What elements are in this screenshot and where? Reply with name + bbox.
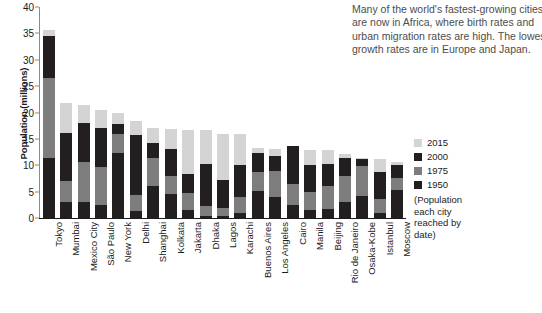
- bar-column[interactable]: [112, 7, 124, 218]
- bar-column[interactable]: [130, 7, 142, 218]
- y-axis-tick-label: 25: [23, 81, 34, 92]
- caption-line: Many of the world's fastest-growing citi…: [352, 3, 542, 16]
- y-axis-ticks: 0510152025303540: [0, 0, 40, 313]
- bar-column[interactable]: [147, 7, 159, 218]
- legend: 2015200019751950 (Populationeach cityrea…: [414, 136, 486, 240]
- y-axis-tick-label: 10: [23, 160, 34, 171]
- legend-swatch-icon: [414, 139, 422, 147]
- bar-column[interactable]: [95, 7, 107, 218]
- x-axis-label: New York: [122, 222, 134, 262]
- bar-column[interactable]: [287, 7, 299, 218]
- bar-segment-1950: [95, 205, 107, 218]
- y-axis-tick-label: 20: [23, 107, 34, 118]
- bar-column[interactable]: [43, 7, 55, 218]
- legend-note-line: reached by: [414, 217, 486, 229]
- x-axis-label: Moscow: [401, 222, 413, 257]
- bar-segment-1950: [217, 216, 229, 218]
- legend-item[interactable]: 1950: [414, 178, 486, 191]
- bar-column[interactable]: [322, 7, 334, 218]
- legend-swatch-icon: [414, 167, 422, 175]
- bar-segment-1950: [252, 191, 264, 218]
- x-axis-label: Rio de Janeiro: [349, 222, 361, 283]
- legend-items: 2015200019751950: [414, 136, 486, 191]
- bar-column[interactable]: [217, 7, 229, 218]
- caption-line: urban migration rates are high. The lowe…: [352, 30, 542, 43]
- bar-column[interactable]: [60, 7, 72, 218]
- bar-segment-1950: [374, 213, 386, 218]
- x-axis-label: Manila: [314, 222, 326, 250]
- y-axis-tick-label: 15: [23, 133, 34, 144]
- y-axis-tick-label: 5: [28, 186, 34, 197]
- bar-column[interactable]: [339, 7, 351, 218]
- legend-item[interactable]: 2000: [414, 150, 486, 163]
- bar-column[interactable]: [200, 7, 212, 218]
- bar-segment-1950: [287, 205, 299, 218]
- x-axis-label: Buenos Aires: [262, 222, 274, 278]
- bar-column[interactable]: [234, 7, 246, 218]
- bar-column[interactable]: [78, 7, 90, 218]
- bar-segment-1950: [322, 209, 334, 218]
- y-axis-tick-label: 40: [23, 2, 34, 13]
- y-axis-tick-label: 35: [23, 28, 34, 39]
- x-axis-label: Mumbai: [70, 222, 82, 256]
- bar-segment-1950: [43, 158, 55, 218]
- bar-column[interactable]: [269, 7, 281, 218]
- y-axis-tick-label: 30: [23, 54, 34, 65]
- x-axis-label: Delhi: [140, 222, 152, 244]
- x-axis-label: Kolkata: [175, 222, 187, 254]
- x-axis-labels: TokyoMumbaiMexico CitySão PauloNew YorkD…: [40, 219, 406, 313]
- legend-item[interactable]: 2015: [414, 136, 486, 149]
- x-axis-label: Mexico City: [88, 222, 100, 271]
- x-axis-label: Osaka-Kobe: [366, 222, 378, 275]
- x-axis-label: Lagos: [227, 222, 239, 248]
- bar-column[interactable]: [304, 7, 316, 218]
- bar-column[interactable]: [165, 7, 177, 218]
- x-axis-label: Cairo: [297, 222, 309, 245]
- bar-segment-1950: [269, 197, 281, 218]
- x-axis-label: Tokyo: [53, 222, 65, 247]
- caption-text: Many of the world's fastest-growing citi…: [352, 3, 542, 57]
- legend-swatch-icon: [414, 153, 422, 161]
- bar-segment-1950: [356, 196, 368, 218]
- bar-segment-1950: [165, 194, 177, 218]
- x-axis-label: Los Angeles: [279, 222, 291, 274]
- caption-line: growth rates are in Europe and Japan.: [352, 43, 542, 56]
- bar-column[interactable]: [252, 7, 264, 218]
- legend-note-line: date): [414, 229, 486, 241]
- x-axis-label: Karachi: [244, 222, 256, 254]
- legend-note-line: each city: [414, 206, 486, 218]
- legend-item[interactable]: 1975: [414, 164, 486, 177]
- x-axis-label: Dhaka: [210, 222, 222, 249]
- x-axis-label: Jakarta: [192, 222, 204, 253]
- x-axis-label: Beijing: [332, 222, 344, 251]
- bar-segment-1950: [234, 213, 246, 218]
- legend-note: (Populationeach cityreached bydate): [414, 194, 486, 240]
- legend-label: 1975: [427, 165, 448, 176]
- bar-segment-1950: [182, 210, 194, 218]
- bar-segment-1950: [391, 190, 403, 218]
- legend-swatch-icon: [414, 181, 422, 189]
- bar-segment-1950: [339, 202, 351, 218]
- x-axis-label: Istanbul: [384, 222, 396, 255]
- bar-segment-1950: [130, 211, 142, 218]
- bar-segment-1950: [112, 153, 124, 218]
- y-axis-tick-label: 0: [28, 213, 34, 224]
- bar-segment-1950: [147, 186, 159, 218]
- legend-note-line: (Population: [414, 194, 486, 206]
- bar-column[interactable]: [182, 7, 194, 218]
- x-axis-label: Shanghai: [157, 222, 169, 262]
- legend-label: 1950: [427, 179, 448, 190]
- bar-segment-1950: [304, 210, 316, 218]
- legend-label: 2000: [427, 151, 448, 162]
- bar-segment-1950: [60, 202, 72, 218]
- bar-segment-1950: [78, 202, 90, 218]
- x-axis-label: São Paulo: [105, 222, 117, 266]
- bar-segment-1950: [200, 216, 212, 218]
- caption-line: are now in Africa, where birth rates and: [352, 16, 542, 29]
- legend-label: 2015: [427, 137, 448, 148]
